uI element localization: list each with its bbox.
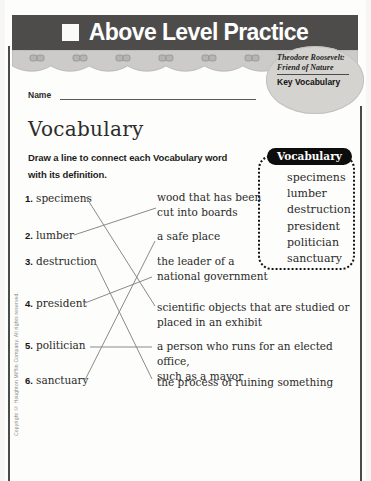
definition-scientific-objects: scientific objects that are studied orpl… [157, 300, 357, 330]
term-word: specimens [36, 192, 92, 204]
vocabulary-box-label: Vocabulary [267, 148, 352, 165]
header-banner: Above Level Practice [12, 15, 358, 50]
term-word: president [36, 297, 87, 309]
term-word: destruction [36, 255, 97, 267]
badge-section-label: Key Vocabulary [277, 77, 357, 87]
definition-line: scientific objects that are studied or [157, 300, 357, 315]
term-word: politician [36, 339, 86, 351]
definition-leader: the leader of anational government [157, 254, 357, 284]
name-label: Name [28, 90, 51, 100]
definition-ruining: the process of ruining something [157, 375, 357, 390]
term-word: sanctuary [36, 374, 89, 386]
name-input-line[interactable] [60, 89, 256, 100]
term-specimens: 1.specimens [25, 192, 92, 204]
lesson-badge-text: Theodore Roosevelt: Friend of Nature Key… [277, 53, 357, 87]
term-number: 2. [25, 230, 36, 241]
term-politician: 5.politician [25, 339, 86, 351]
definition-line: cut into boards [157, 205, 357, 220]
definition-line: the process of ruining something [157, 375, 357, 390]
header-title: Above Level Practice [89, 19, 308, 46]
term-number: 3. [25, 256, 36, 267]
term-number: 4. [25, 298, 36, 309]
definition-safe-place: a safe place [157, 229, 357, 244]
term-sanctuary: 6.sanctuary [25, 374, 89, 386]
square-bullet-icon [62, 24, 79, 41]
book-title-line1: Theodore Roosevelt: [277, 53, 357, 63]
term-number: 1. [25, 193, 36, 204]
name-row: Name [28, 89, 256, 100]
definition-wood: wood that has beencut into boards [157, 190, 357, 220]
book-title-line2: Friend of Nature [277, 63, 357, 73]
instruction-line1: Draw a line to connect each Vocabulary w… [28, 152, 227, 163]
definition-line: a person who runs for an elected office, [157, 339, 357, 369]
term-word: lumber [36, 229, 74, 241]
worksheet-screenshot: Above Level Practice Theodore Roosevelt:… [0, 0, 371, 481]
page-right-edge [360, 106, 362, 481]
definition-line: placed in an exhibit [157, 315, 357, 330]
page-title: Vocabulary [28, 117, 144, 141]
definition-line: national government [157, 269, 357, 284]
term-destruction: 3.destruction [25, 255, 97, 267]
term-number: 6. [25, 375, 36, 386]
instruction-line2: with its definition. [28, 169, 107, 180]
vocab-word: specimens [287, 170, 353, 186]
page-left-edge [8, 46, 10, 481]
badge-divider [277, 74, 349, 75]
instruction-text: Draw a line to connect each Vocabulary w… [28, 149, 227, 183]
term-president: 4.president [25, 297, 87, 309]
term-lumber: 2.lumber [25, 229, 74, 241]
definition-line: the leader of a [157, 254, 357, 269]
definition-line: wood that has been [157, 190, 357, 205]
term-number: 5. [25, 340, 36, 351]
copyright-text: Copyright © Houghton Mifflin Company. Al… [13, 296, 19, 436]
definition-line: a safe place [157, 229, 357, 244]
